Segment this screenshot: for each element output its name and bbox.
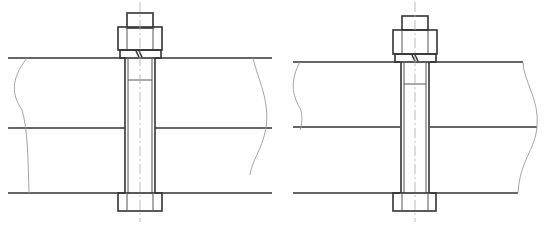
- right-bolted-joint: [293, 2, 537, 222]
- left-bolted-joint: [8, 2, 272, 222]
- left-break-line-right: [250, 58, 267, 175]
- drawing-canvas: [0, 0, 546, 235]
- bolted-joint-drawings: [0, 0, 546, 235]
- right-break-line-left: [293, 62, 302, 130]
- right-bolt-head: [393, 193, 436, 211]
- left-break-line-left: [14, 58, 29, 193]
